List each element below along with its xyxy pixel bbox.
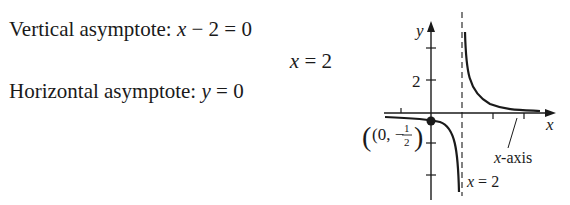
point-label-open: (0, − (372, 125, 404, 144)
graph: y x 2 ( (0, − 1 2 ) x-axis x = 2 (0, 0, 570, 205)
y-axis-arrow-icon (427, 21, 435, 32)
y-axis-label: y (414, 21, 424, 40)
y-intercept-point (427, 117, 436, 126)
curve-right-branch (465, 32, 540, 111)
y-tick-label-2: 2 (412, 72, 421, 91)
x-axis-pointer (508, 118, 517, 148)
asymptote-annotation: x = 2 (466, 173, 499, 190)
point-label-close: ) (414, 121, 423, 152)
x-axis-label: x (545, 115, 554, 134)
x-axis-annotation: x-axis (493, 149, 532, 166)
paren-open: ( (362, 121, 371, 152)
fraction-numerator: 1 (404, 122, 410, 134)
fraction-denominator: 2 (404, 136, 410, 148)
